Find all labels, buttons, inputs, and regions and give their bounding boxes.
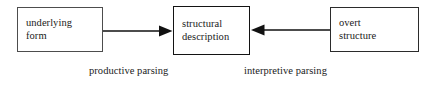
node-overt-structure: overt structure xyxy=(330,7,419,52)
parsing-flow-diagram: underlying form structural description o… xyxy=(0,0,429,88)
edge-label-productive-parsing: productive parsing xyxy=(89,65,168,77)
node-structural-description: structural description xyxy=(173,6,250,55)
node-structural-description-line2: description xyxy=(182,31,249,44)
node-structural-description-line1: structural xyxy=(182,18,249,31)
node-underlying-form: underlying form xyxy=(17,7,103,52)
node-overt-structure-line2: structure xyxy=(339,30,418,43)
arrow-productive-parsing-icon xyxy=(103,22,173,40)
edge-label-interpretive-parsing: interpretive parsing xyxy=(244,65,327,77)
arrow-interpretive-parsing-icon xyxy=(250,21,330,39)
node-underlying-form-line2: form xyxy=(26,30,102,43)
node-underlying-form-line1: underlying xyxy=(26,17,102,30)
node-overt-structure-line1: overt xyxy=(339,17,418,30)
